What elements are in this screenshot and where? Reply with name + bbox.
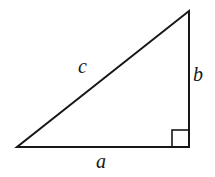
horizontal-leg-label-a: a [96, 151, 106, 171]
triangle-outline [17, 11, 189, 147]
figure-canvas: c b a [0, 0, 215, 177]
right-triangle-graphic [0, 0, 215, 177]
right-angle-square-icon [172, 130, 189, 147]
vertical-leg-label-b: b [193, 64, 203, 84]
hypotenuse-label-c: c [78, 56, 87, 76]
